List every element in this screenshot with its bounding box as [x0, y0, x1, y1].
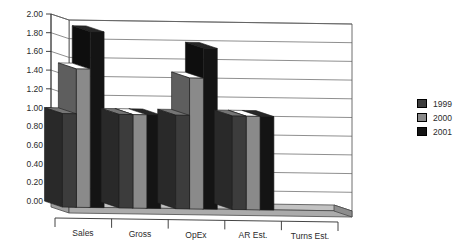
chart-canvas: 0.00 0.20 0.40 0.60 0.80 1.00 1.20 1.40 … — [0, 0, 471, 248]
y-tick-label: 2.00 — [26, 9, 43, 19]
y-tick-label: 1.20 — [26, 84, 43, 94]
legend-item: 2000 — [417, 112, 471, 126]
legend-label: 2001 — [433, 127, 452, 137]
x-tick-label: Sales — [72, 228, 93, 238]
y-tick-label: 0.60 — [26, 140, 43, 150]
bar — [158, 109, 190, 209]
y-tick-label: 1.80 — [26, 28, 43, 38]
bar — [101, 108, 133, 208]
y-tick-label: 0.20 — [26, 177, 43, 187]
y-tick-label: 1.00 — [26, 103, 43, 113]
legend-swatch-2001 — [417, 127, 427, 136]
chart-legend: 1999 2000 2001 — [417, 98, 471, 140]
bar-chart: 0.00 0.20 0.40 0.60 0.80 1.00 1.20 1.40 … — [0, 0, 471, 248]
legend-item: 1999 — [417, 98, 471, 112]
legend-label: 2000 — [433, 113, 452, 123]
bar — [44, 108, 76, 208]
legend-item: 2001 — [417, 126, 471, 140]
bar — [214, 110, 246, 210]
y-tick-labels: 0.00 0.20 0.40 0.60 0.80 1.00 1.20 1.40 … — [26, 9, 43, 206]
x-tick-label: Gross — [129, 229, 152, 239]
x-tick-label: Turns Est. — [291, 231, 329, 241]
y-tick-label: 0.80 — [26, 121, 43, 131]
y-tick-label: 1.60 — [26, 46, 43, 56]
legend-label: 1999 — [433, 99, 452, 109]
legend-swatch-1999 — [417, 99, 427, 108]
y-tick-label: 0.40 — [26, 159, 43, 169]
x-tick-label: OpEx — [185, 230, 207, 240]
legend-swatch-2000 — [417, 113, 427, 122]
y-tick-label: 0.00 — [26, 196, 43, 206]
y-tick-label: 1.40 — [26, 65, 43, 75]
x-category-labels: Sales Gross OpEx AR Est. Turns Est. — [72, 228, 329, 241]
x-tick-label: AR Est. — [239, 230, 268, 240]
